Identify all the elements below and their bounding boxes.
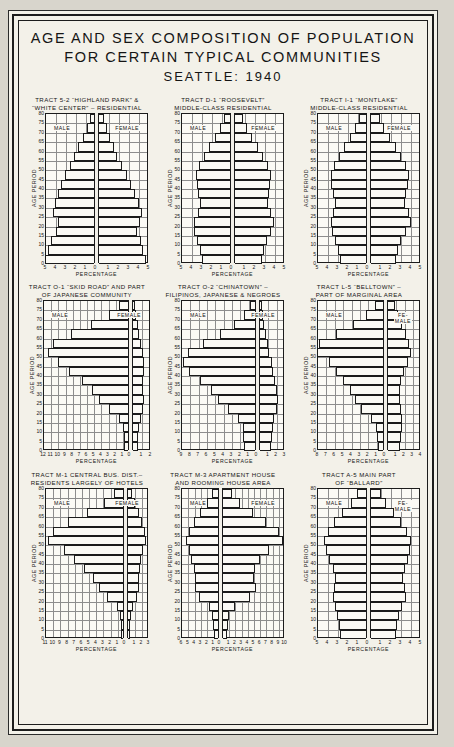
y-tick-label: 80 [310, 110, 316, 116]
plot-area: MALEFEMALE54321012345PERCENTAGE [317, 113, 420, 277]
x-axis-ticks: 121110987654321012 [43, 450, 150, 458]
age-bar [351, 498, 366, 507]
age-bar [388, 395, 400, 404]
x-tick-label: 3 [283, 451, 286, 457]
x-tick-label: 10 [281, 639, 287, 645]
chart-caption-line: TRACT O-1 “SKID ROAD” AND PART [21, 283, 153, 291]
y-tick-label: 35 [174, 569, 180, 575]
male-label: MALE [189, 500, 207, 506]
female-pane: FEMALE [98, 113, 148, 263]
age-bar [99, 208, 142, 217]
age-bar [99, 170, 127, 179]
y-tick-label: 60 [310, 335, 316, 341]
age-bar [371, 161, 406, 170]
age-bar [338, 245, 366, 254]
y-tick-label: 65 [310, 138, 316, 144]
y-tick-label: 25 [174, 400, 180, 406]
y-tick-label: 30 [36, 391, 42, 397]
y-tick-label: 40 [38, 560, 44, 566]
age-bar [371, 123, 384, 132]
y-tick-label: 15 [38, 607, 44, 613]
male-label: MALE [325, 125, 343, 131]
age-bar [371, 564, 405, 573]
poster-sheet: AGE AND SEX COMPOSITION OF POPULATION FO… [8, 10, 438, 735]
age-bar [200, 376, 255, 385]
age-bar [61, 180, 94, 189]
age-bar [377, 432, 383, 441]
x-tick-label: 5 [92, 451, 95, 457]
y-tick-label: 30 [310, 204, 316, 210]
age-bar [331, 217, 366, 226]
age-bar [133, 376, 143, 385]
age-bar [334, 583, 366, 592]
age-bar [56, 227, 94, 236]
age-bar [223, 498, 240, 507]
y-tick-label: 40 [174, 372, 180, 378]
y-tick-label: 35 [310, 381, 316, 387]
y-tick-label: 5 [313, 438, 316, 444]
y-tick-label: 5 [177, 251, 180, 257]
y-tick-label: 10 [174, 428, 180, 434]
x-tick-label: 4 [99, 451, 102, 457]
male-label: MALE [53, 125, 71, 131]
chart-cell-tract-o-2-chinatown: TRACT O-2 “CHINATOWN” –FILIPINOS, JAPANE… [157, 283, 289, 464]
pyramid-chart: AGE PERIOD051015202530354045505560657075… [25, 113, 149, 277]
age-bar [371, 180, 408, 189]
y-tick-label: 50 [174, 166, 180, 172]
age-bar [388, 423, 402, 432]
age-bar [53, 339, 128, 348]
x-tick-label: 4 [94, 639, 97, 645]
age-bar [215, 133, 230, 142]
x-tick-label: 3 [199, 639, 202, 645]
age-bar [99, 142, 114, 151]
male-label: MALE [51, 312, 69, 318]
y-tick-label: 10 [310, 428, 316, 434]
chart-cell-tract-m-1-central-business: TRACT M-1 CENTRAL BUS. DIST.–RESIDENTS L… [21, 471, 153, 652]
age-bar [371, 236, 401, 245]
male-label: MALE [325, 500, 343, 506]
x-tick-label: 6 [80, 639, 83, 645]
male-pane: MALE [45, 113, 95, 263]
y-tick-label: 45 [38, 176, 44, 182]
age-bar [128, 602, 133, 611]
chart-cell-tract-o-1-skid-road: TRACT O-1 “SKID ROAD” AND PARTOF JAPANES… [21, 283, 153, 464]
x-tick-label: 7 [196, 451, 199, 457]
x-tick-label: 2 [233, 639, 236, 645]
age-bar [235, 208, 271, 217]
y-tick-label: 15 [36, 419, 42, 425]
y-tick-label: 20 [174, 410, 180, 416]
age-bar [128, 564, 140, 573]
age-bar [350, 133, 366, 142]
y-axis-ticks: 05101520253035404550556065707580 [306, 113, 317, 263]
y-tick-label: 45 [38, 551, 44, 557]
y-tick-label: 80 [174, 297, 180, 303]
y-tick-label: 55 [310, 157, 316, 163]
age-bar [371, 536, 411, 545]
age-bar [353, 320, 383, 329]
x-tick-label: 5 [252, 639, 255, 645]
pyramid-chart: AGE PERIOD051015202530354045505560657075… [23, 300, 151, 464]
age-bar [357, 489, 366, 498]
age-bar [107, 592, 123, 601]
age-bar [196, 170, 230, 179]
x-tick-label: 2 [274, 451, 277, 457]
x-tick-label: 1 [356, 639, 359, 645]
x-tick-label: 6 [258, 639, 261, 645]
age-bar [133, 423, 139, 432]
age-bar [199, 161, 230, 170]
age-bar [194, 217, 230, 226]
female-pane: FEMALE [370, 113, 420, 263]
y-axis-label: AGE PERIOD [161, 300, 170, 450]
age-bar [371, 133, 390, 142]
age-bar [388, 339, 409, 348]
x-tick-label: 4 [54, 264, 57, 270]
y-axis-label: AGE PERIOD [161, 488, 170, 638]
y-tick-label: 65 [174, 138, 180, 144]
y-tick-label: 40 [310, 185, 316, 191]
poster-title: AGE AND SEX COMPOSITION OF POPULATION FO… [19, 21, 427, 86]
age-bar [186, 536, 218, 545]
age-bar [334, 517, 366, 526]
x-tick-label: 1 [266, 451, 269, 457]
x-axis-ticks: 11109876543210123 [45, 638, 148, 646]
y-tick-label: 50 [310, 353, 316, 359]
